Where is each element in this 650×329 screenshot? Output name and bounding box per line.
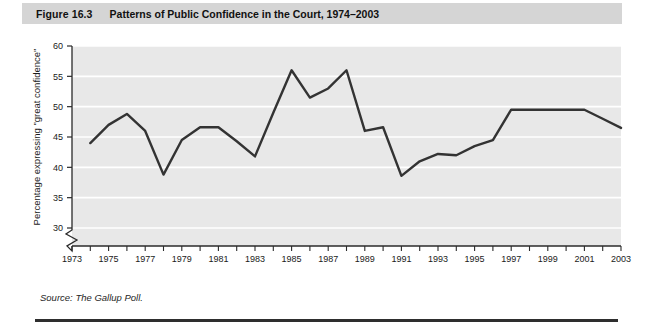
figure-title-label: Patterns of Public Confidence in the Cou… <box>110 8 380 20</box>
x-tick-label-1997: 1997 <box>501 254 521 264</box>
x-tick-label-1985: 1985 <box>282 254 302 264</box>
x-tick-label-1993: 1993 <box>428 254 448 264</box>
figure-number-label: Figure 16.3 <box>36 8 93 20</box>
y-tick-label-40: 40 <box>53 163 63 173</box>
source-note: Source: The Gallup Poll. <box>40 292 143 303</box>
y-tick-label-55: 55 <box>53 72 63 82</box>
y-tick-label-60: 60 <box>53 41 63 51</box>
x-tick-label-2001: 2001 <box>574 254 594 264</box>
x-tick-label-1999: 1999 <box>538 254 558 264</box>
x-tick-label-1979: 1979 <box>172 254 192 264</box>
chart-container: 30354045505560 1973197519771979198119831… <box>0 28 650 288</box>
x-tick-label-1983: 1983 <box>245 254 265 264</box>
figure-header-bar: Figure 16.3 Patterns of Public Confidenc… <box>22 3 622 24</box>
line-chart: 30354045505560 1973197519771979198119831… <box>0 28 650 288</box>
x-tick-label-2003: 2003 <box>611 254 631 264</box>
x-tick-label-1989: 1989 <box>355 254 375 264</box>
x-tick-label-1995: 1995 <box>465 254 485 264</box>
bottom-divider <box>35 319 618 322</box>
y-tick-label-50: 50 <box>53 102 63 112</box>
y-axis-title: Percentage expressing "great confidence" <box>31 49 42 226</box>
x-tick-label-1987: 1987 <box>318 254 338 264</box>
y-tick-label-45: 45 <box>53 132 63 142</box>
x-tick-label-1991: 1991 <box>391 254 411 264</box>
x-tick-label-1973: 1973 <box>62 254 82 264</box>
x-tick-label-1981: 1981 <box>208 254 228 264</box>
y-tick-label-35: 35 <box>53 193 63 203</box>
x-tick-label-1975: 1975 <box>99 254 119 264</box>
x-axis-ticks: 1973197519771979198119831985198719891991… <box>62 246 631 264</box>
x-tick-label-1977: 1977 <box>135 254 155 264</box>
y-axis-ticks: 30354045505560 <box>53 41 72 233</box>
y-tick-label-30: 30 <box>53 223 63 233</box>
